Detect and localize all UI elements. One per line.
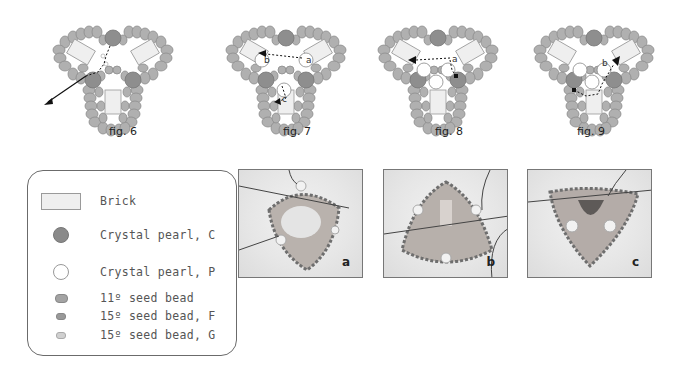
crystal-pearl-c-swatch xyxy=(53,227,69,243)
legend-box: Brick Crystal pearl, C Crystal pearl, P … xyxy=(27,170,237,356)
figure-caption: fig. 8 xyxy=(374,125,524,138)
figure-7: b a c fig. 7 xyxy=(220,0,370,160)
legend-label: 15º seed bead, F xyxy=(100,307,216,325)
legend-label: 15º seed bead, G xyxy=(100,326,216,344)
photo-label: b xyxy=(486,255,495,269)
bead-diagram-fig9: b xyxy=(528,20,674,140)
figure-8: a fig. 8 xyxy=(372,0,522,160)
legend-item-crystal-pearl-p: Crystal pearl, P xyxy=(28,263,236,281)
brick-swatch xyxy=(41,193,81,210)
figure-caption: fig. 9 xyxy=(516,125,666,138)
figure-9: b fig. 9 xyxy=(528,0,674,160)
legend-item-brick: Brick xyxy=(28,192,236,210)
thread-arrow xyxy=(48,76,86,102)
legend-item-seed-bead-15f: 15º seed bead, F xyxy=(28,307,236,325)
legend-item-crystal-pearl-c: Crystal pearl, C xyxy=(28,226,236,244)
bead-diagram-fig6 xyxy=(38,20,188,140)
seed-bead-15f-swatch xyxy=(56,313,66,320)
bead-diagram-fig7: b a c xyxy=(220,20,370,140)
legend-item-seed-bead-11: 11º seed bead xyxy=(28,289,236,307)
arrowhead-icon xyxy=(44,98,53,105)
figure-caption: fig. 6 xyxy=(48,125,198,138)
annotation-b: b xyxy=(602,58,608,68)
legend-item-seed-bead-15g: 15º seed bead, G xyxy=(28,326,236,344)
legend-label: Crystal pearl, C xyxy=(100,226,216,244)
annotation-a: a xyxy=(306,55,312,65)
bead-diagram-fig8: a xyxy=(372,20,522,140)
photo-b: b xyxy=(383,169,508,278)
annotation-b: b xyxy=(264,55,270,65)
annotation-c: c xyxy=(282,94,287,104)
crystal-pearl-p-swatch xyxy=(53,264,69,280)
legend-label: Crystal pearl, P xyxy=(100,263,216,281)
figure-caption: fig. 7 xyxy=(222,125,372,138)
photo-label: a xyxy=(342,255,350,269)
seed-bead-15g-swatch xyxy=(56,332,66,339)
figure-6: fig. 6 xyxy=(38,0,188,160)
photo-label: c xyxy=(632,255,639,269)
photo-c: c xyxy=(527,169,652,278)
seed-bead-11-swatch xyxy=(55,294,68,303)
annotation-a: a xyxy=(452,54,458,64)
photo-a: a xyxy=(238,169,363,278)
legend-label: Brick xyxy=(100,192,136,210)
legend-label: 11º seed bead xyxy=(100,289,194,307)
